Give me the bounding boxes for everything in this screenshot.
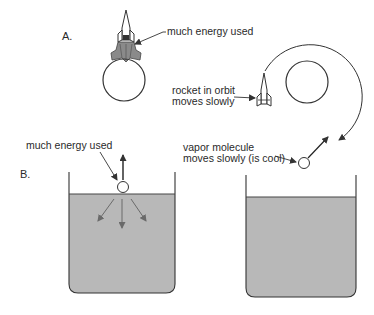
launch-pointer-arrow [135,32,166,44]
vapor-molecule [299,158,310,169]
launch-rocket-icon [111,10,141,62]
earth-orbit [286,61,328,103]
evaporation-analogy-diagram: A. much energy used rocket in [0,0,374,315]
panel-a: A. much energy used rocket in [62,10,362,140]
panel-b-label: B. [20,168,30,180]
evap-energy-label: much energy used [26,139,113,151]
vapor-label-line2: moves slowly (is cool) [183,152,285,164]
vapor-molecule-arrow [308,137,328,158]
orbit-pointer-arrow [234,97,255,98]
orbit-rocket-icon [257,73,271,106]
molecule-left [118,182,129,193]
liquid-right [246,197,356,297]
evap-pointer-arrow [100,152,117,180]
launch-energy-label: much energy used [167,25,254,37]
earth-launch [103,59,145,101]
orbit-path-arrow [265,45,362,140]
panel-b: B. much energy used vapor molecule moves… [20,137,356,297]
orbit-label-line2: moves slowly [172,95,235,107]
beaker-right [246,175,356,297]
panel-a-label: A. [62,30,72,42]
